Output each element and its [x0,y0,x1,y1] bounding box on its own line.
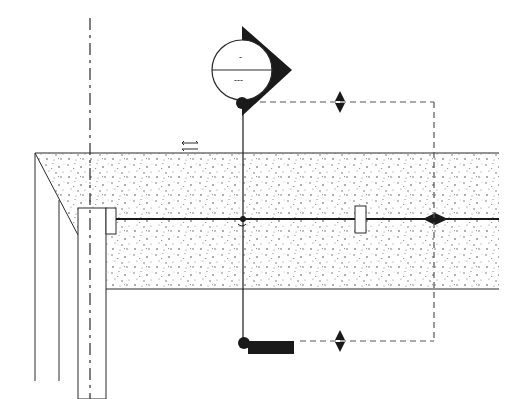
cad-drawing-canvas: - --- [0,0,519,399]
bidirectional-arrow-icon [182,141,198,151]
section-lower-text: --- [234,75,243,85]
section-upper-text: - [239,52,242,62]
joint-marker [355,206,366,233]
section-drawing [0,0,519,399]
filled-tag-icon[interactable] [238,337,294,354]
